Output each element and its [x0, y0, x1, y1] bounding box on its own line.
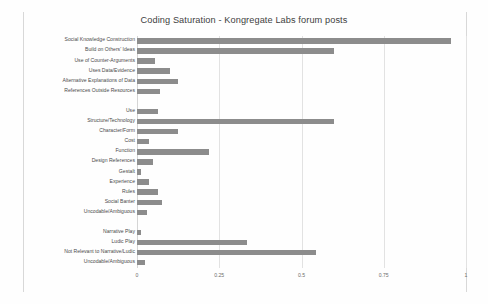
bar-row: Uncodable/Ambiguous: [137, 207, 466, 217]
bar: [137, 179, 149, 184]
bar: [137, 260, 145, 265]
category-label: Build on Others' Ideas: [0, 45, 135, 53]
category-label: Social Knowledge Construction: [0, 35, 135, 43]
category-label: Character/Form: [0, 126, 135, 134]
x-tick-label: 1: [465, 272, 468, 278]
bar-row: Use: [137, 107, 466, 117]
bar-row: Narrative Play: [137, 228, 466, 238]
category-label: Ludic Play: [0, 237, 135, 245]
category-label: Structure/Technology: [0, 116, 135, 124]
bar-row: Rules: [137, 187, 466, 197]
bar: [137, 250, 316, 255]
category-label: Narrative Play: [0, 227, 135, 235]
category-label: Alternative Explanations of Data: [0, 76, 135, 84]
bar: [137, 68, 170, 73]
bar: [137, 189, 158, 194]
bar: [137, 79, 178, 84]
bar-row: Social Knowledge Construction: [137, 36, 466, 46]
x-axis: 00.250.50.751: [137, 268, 466, 288]
category-label: Rules: [0, 187, 135, 195]
x-tick-label: 0.75: [379, 272, 389, 278]
bar: [137, 159, 153, 164]
x-tick-label: 0.5: [298, 272, 305, 278]
bar-row: Function: [137, 147, 466, 157]
bar-row: References Outside Resources: [137, 86, 466, 96]
bar-row: [137, 97, 466, 107]
bar-row: Uncodable/Ambiguous: [137, 258, 466, 268]
bar-row: Use of Counter-Arguments: [137, 56, 466, 66]
bar: [137, 119, 334, 124]
plot-area: Social Knowledge ConstructionBuild on Ot…: [137, 36, 466, 268]
bar: [137, 169, 141, 174]
bar: [137, 200, 162, 205]
category-label: Function: [0, 146, 135, 154]
bar-row: Uses Data/Evidence: [137, 66, 466, 76]
bar-row: Ludic Play: [137, 238, 466, 248]
bar: [137, 38, 451, 43]
bar-row: Experience: [137, 177, 466, 187]
category-label: Experience: [0, 177, 135, 185]
bar: [137, 48, 334, 53]
bar-row: Gestalt: [137, 167, 466, 177]
bar-series: Social Knowledge ConstructionBuild on Ot…: [137, 36, 466, 268]
category-label: Uncodable/Ambiguous: [0, 257, 135, 265]
bar-row: Alternative Explanations of Data: [137, 76, 466, 86]
category-label: Gestalt: [0, 167, 135, 175]
category-label: Design References: [0, 156, 135, 164]
bar-row: [137, 218, 466, 228]
bar: [137, 149, 209, 154]
category-label: Cost: [0, 136, 135, 144]
category-label: Uncodable/Ambiguous: [0, 207, 135, 215]
bar-row: Character/Form: [137, 127, 466, 137]
category-label: Uses Data/Evidence: [0, 66, 135, 74]
bar: [137, 139, 149, 144]
bar: [137, 109, 158, 114]
category-label: Use of Counter-Arguments: [0, 56, 135, 64]
bar-row: Design References: [137, 157, 466, 167]
bar: [137, 58, 155, 63]
x-tick-label: 0: [136, 272, 139, 278]
chart-figure: Coding Saturation - Kongregate Labs foru…: [0, 0, 488, 304]
bar: [137, 240, 247, 245]
x-tick-label: 0.25: [214, 272, 224, 278]
bar-row: Cost: [137, 137, 466, 147]
category-label: References Outside Resources: [0, 86, 135, 94]
category-label: Use: [0, 106, 135, 114]
gridline: [466, 36, 467, 268]
bar: [137, 89, 160, 94]
bar-row: Structure/Technology: [137, 117, 466, 127]
category-label: Not Relevant to Narrative/Ludic: [0, 247, 135, 255]
bar: [137, 210, 147, 215]
category-label: Social Banter: [0, 197, 135, 205]
bar: [137, 230, 141, 235]
bar: [137, 129, 178, 134]
bar-row: Social Banter: [137, 197, 466, 207]
bar-row: Not Relevant to Narrative/Ludic: [137, 248, 466, 258]
chart-title: Coding Saturation - Kongregate Labs foru…: [0, 15, 488, 25]
bar-row: Build on Others' Ideas: [137, 46, 466, 56]
